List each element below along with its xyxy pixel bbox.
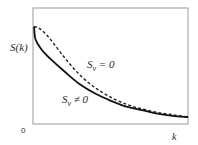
curve-sv-zero xyxy=(34,27,188,117)
annotation-sv-zero: Sv = 0 xyxy=(87,58,115,73)
y-axis-label: S(k) xyxy=(10,41,28,54)
structure-factor-chart: S(k) 0 k Sv = 0 Sv ≠ 0 xyxy=(0,0,198,145)
origin-label: 0 xyxy=(21,126,26,135)
annotation-sv-nonzero: Sv ≠ 0 xyxy=(62,93,89,108)
curve-sv-nonzero xyxy=(34,27,188,117)
x-axis-label: k xyxy=(172,131,177,142)
